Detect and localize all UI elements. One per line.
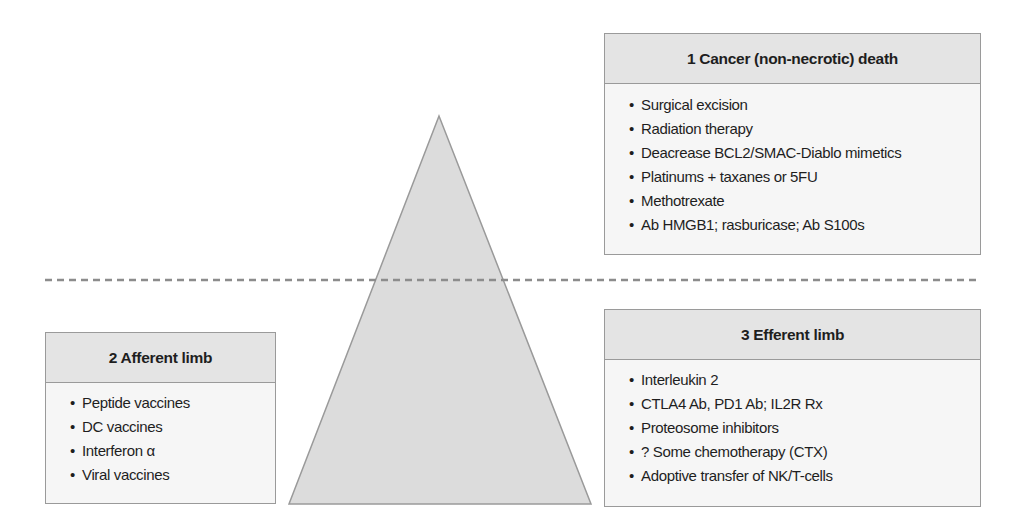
pyramid-triangle	[289, 116, 591, 504]
bullet-icon: •	[70, 391, 75, 415]
bullet-icon: •	[629, 141, 634, 165]
list-item: •Proteosome inhibitors	[641, 416, 980, 440]
list-item: •? Some chemotherapy (CTX)	[641, 440, 980, 464]
list-item: •Methotrexate	[641, 189, 980, 213]
list-item: •Peptide vaccines	[82, 391, 275, 415]
box-afferent-limb-title: 2 Afferent limb	[46, 333, 275, 383]
bullet-icon: •	[629, 440, 634, 464]
box-efferent-limb-list: •Interleukin 2 •CTLA4 Ab, PD1 Ab; IL2R R…	[605, 360, 980, 488]
bullet-icon: •	[629, 368, 634, 392]
bullet-icon: •	[629, 117, 634, 141]
bullet-icon: •	[629, 416, 634, 440]
bullet-icon: •	[629, 93, 634, 117]
list-item: •Radiation therapy	[641, 117, 980, 141]
box-efferent-limb-title: 3 Efferent limb	[605, 310, 980, 360]
list-item: •Surgical excision	[641, 93, 980, 117]
bullet-icon: •	[629, 189, 634, 213]
list-item: •Viral vaccines	[82, 463, 275, 487]
box-afferent-limb: 2 Afferent limb •Peptide vaccines •DC va…	[45, 332, 276, 504]
box-efferent-limb: 3 Efferent limb •Interleukin 2 •CTLA4 Ab…	[604, 309, 981, 507]
bullet-icon: •	[70, 439, 75, 463]
bullet-icon: •	[629, 213, 634, 237]
list-item: •Interleukin 2	[641, 368, 980, 392]
bullet-icon: •	[70, 463, 75, 487]
list-item: •Platinums + taxanes or 5FU	[641, 165, 980, 189]
list-item: •Interferon α	[82, 439, 275, 463]
box-cancer-death: 1 Cancer (non-necrotic) death •Surgical …	[604, 33, 981, 255]
box-cancer-death-title: 1 Cancer (non-necrotic) death	[605, 34, 980, 84]
box-cancer-death-list: •Surgical excision •Radiation therapy •D…	[605, 84, 980, 237]
list-item: •Deacrease BCL2/SMAC-Diablo mimetics	[641, 141, 980, 165]
list-item: •DC vaccines	[82, 415, 275, 439]
diagram-canvas: 1 Cancer (non-necrotic) death •Surgical …	[0, 0, 1018, 519]
list-item: •CTLA4 Ab, PD1 Ab; IL2R Rx	[641, 392, 980, 416]
list-item: •Adoptive transfer of NK/T-cells	[641, 464, 980, 488]
bullet-icon: •	[629, 392, 634, 416]
bullet-icon: •	[70, 415, 75, 439]
list-item: •Ab HMGB1; rasburicase; Ab S100s	[641, 213, 980, 237]
bullet-icon: •	[629, 464, 634, 488]
box-afferent-limb-list: •Peptide vaccines •DC vaccines •Interfer…	[46, 383, 275, 487]
bullet-icon: •	[629, 165, 634, 189]
